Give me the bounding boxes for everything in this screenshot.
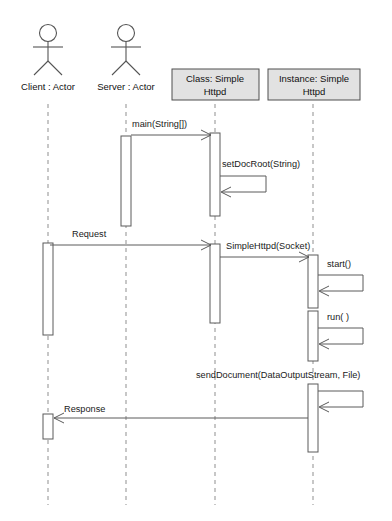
object-box-label-line2: Httpd: [204, 86, 227, 97]
activation-bar-server: [121, 136, 131, 226]
message-request[interactable]: Request: [50, 229, 211, 250]
message-senddocument[interactable]: sendDocument(DataOutputStream, File): [196, 370, 363, 412]
uml-sequence-diagram: Client : Actor Server : Actor Class: Sim…: [0, 0, 392, 521]
object-box-label-line2: Httpd: [303, 86, 326, 97]
participant-label-server: Server : Actor: [97, 81, 155, 92]
message-main[interactable]: main(String[]): [131, 119, 211, 140]
activation-bar-class-2: [210, 244, 220, 323]
message-setdocroot[interactable]: setDocRoot(String): [220, 159, 300, 197]
message-label-main: main(String[]): [132, 119, 187, 129]
object-box-label-line1: Instance: Simple: [279, 73, 349, 84]
message-run[interactable]: run( ): [318, 312, 363, 349]
message-label-start: start(): [327, 259, 351, 269]
participant-label-client: Client : Actor: [21, 81, 75, 92]
activation-bar-class-1: [210, 133, 220, 216]
object-box-label-line1: Class: Simple: [186, 73, 244, 84]
message-simplehttpd-socket[interactable]: SimpleHttpd(Socket): [220, 241, 310, 262]
activation-bar-instance-1: [308, 255, 318, 308]
activation-bar-instance-3: [308, 384, 318, 452]
activation-bar-instance-2: [308, 311, 318, 361]
sequence-diagram-canvas: Client : Actor Server : Actor Class: Sim…: [0, 0, 392, 521]
message-label-senddocument: sendDocument(DataOutputStream, File): [196, 370, 360, 380]
actor-stick-figure-icon: [111, 25, 141, 76]
message-label-setdocroot: setDocRoot(String): [222, 159, 300, 169]
message-label-response: Response: [64, 404, 105, 414]
activation-bar-client-return: [43, 414, 53, 439]
message-start[interactable]: start(): [318, 259, 363, 296]
message-label-request: Request: [72, 229, 107, 239]
message-label-simplehttpd-socket: SimpleHttpd(Socket): [226, 241, 310, 251]
message-label-run: run( ): [327, 312, 349, 322]
participant-server[interactable]: Server : Actor: [97, 25, 155, 506]
activation-bar-client: [43, 243, 53, 335]
message-response[interactable]: Response: [54, 404, 308, 423]
actor-stick-figure-icon: [33, 25, 63, 76]
